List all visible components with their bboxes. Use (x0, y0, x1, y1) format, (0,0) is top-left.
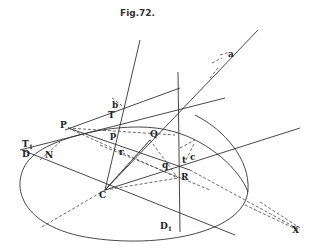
label-b: b (112, 100, 118, 110)
dashed-near-a-3 (212, 58, 222, 63)
label-r: R (181, 172, 189, 182)
dashed-c-lower (40, 190, 105, 228)
tangent-line-t1 (20, 98, 225, 150)
label-p-small: p (110, 130, 116, 140)
label-r-small: r (119, 147, 124, 157)
dashed-to-x-2 (245, 205, 298, 230)
diameter-d-d1 (22, 150, 235, 235)
ellipse (20, 115, 248, 241)
label-q: Q (150, 129, 158, 139)
dashed-q-r (150, 140, 178, 178)
label-d: D (22, 149, 30, 159)
label-t: T (108, 110, 115, 120)
label-q-small: q (162, 160, 169, 170)
label-x: X (292, 225, 299, 235)
dashed-near-c-1 (180, 140, 195, 148)
dashed-to-x-1 (190, 170, 300, 230)
label-p: P (60, 120, 67, 130)
vertical-line (178, 72, 180, 232)
label-c: C (99, 190, 106, 200)
geometry-diagram: Fig.72. a b T T1 D N P p Q r q R C c (0, 0, 316, 248)
label-n: N (45, 150, 53, 160)
label-c-small: c (190, 152, 196, 162)
label-a: a (228, 49, 234, 59)
label-d1: D1 (160, 221, 172, 232)
conic-arc (38, 127, 248, 192)
figure-title: Fig.72. (120, 8, 155, 18)
dashed-c-r (105, 178, 178, 190)
